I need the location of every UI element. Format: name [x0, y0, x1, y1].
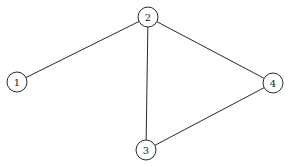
node-label: 1 — [14, 77, 20, 88]
graph-diagram: 1234 — [0, 0, 289, 167]
node-2: 2 — [138, 7, 158, 27]
edge-1-2 — [26, 21, 139, 77]
edge-2-3 — [146, 27, 148, 140]
edge-2-4 — [157, 22, 264, 79]
edge-3-4 — [155, 88, 264, 146]
node-3: 3 — [136, 140, 156, 160]
nodes-group: 1234 — [7, 7, 283, 160]
node-1: 1 — [7, 72, 27, 92]
node-label: 3 — [143, 145, 149, 156]
node-label: 2 — [145, 12, 151, 23]
node-4: 4 — [263, 73, 283, 93]
node-label: 4 — [270, 78, 276, 89]
edges-group — [26, 21, 264, 145]
